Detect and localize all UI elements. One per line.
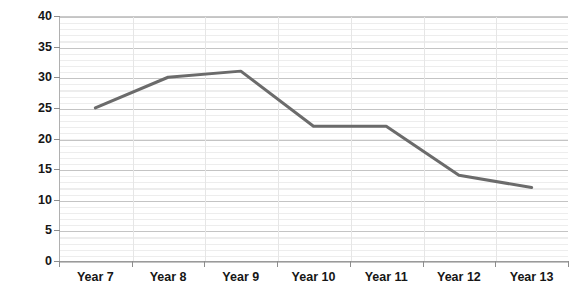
y-tick-mark (54, 47, 60, 48)
y-tick-label: 20 (4, 133, 52, 146)
x-tick-label: Year 12 (423, 271, 496, 284)
x-tick-mark (277, 261, 278, 267)
minor-gridlines (60, 17, 568, 261)
x-tick-label: Year 10 (277, 271, 350, 284)
x-tick-mark (204, 261, 205, 267)
y-tick-label: 15 (4, 163, 52, 176)
major-gridline (60, 48, 568, 49)
y-tick-label: 35 (4, 41, 52, 54)
major-gridline (60, 231, 568, 232)
y-tick-mark (54, 77, 60, 78)
category-separator (205, 17, 206, 261)
y-tick-label: 0 (4, 255, 52, 268)
x-tick-mark (350, 261, 351, 267)
x-tick-label: Year 13 (495, 271, 568, 284)
x-tick-mark (59, 261, 60, 267)
major-gridline (60, 78, 568, 79)
category-separator (278, 17, 279, 261)
y-tick-mark (54, 200, 60, 201)
major-gridline (60, 170, 568, 171)
x-tick-mark (423, 261, 424, 267)
major-gridline (60, 201, 568, 202)
category-separator (351, 17, 352, 261)
x-tick-mark (568, 261, 569, 267)
category-separator (133, 17, 134, 261)
x-tick-label: Year 9 (204, 271, 277, 284)
y-tick-mark (54, 139, 60, 140)
y-tick-mark (54, 230, 60, 231)
category-separator (496, 17, 497, 261)
x-tick-label: Year 7 (59, 271, 132, 284)
y-tick-mark (54, 108, 60, 109)
plot-area (59, 16, 568, 261)
x-tick-label: Year 11 (350, 271, 423, 284)
y-tick-mark (54, 16, 60, 17)
line-chart: 0510152025303540 Year 7Year 8Year 9Year … (0, 0, 580, 297)
x-axis-line (59, 261, 569, 262)
y-tick-mark (54, 169, 60, 170)
major-gridline (60, 262, 568, 263)
major-gridline (60, 140, 568, 141)
y-tick-label: 5 (4, 224, 52, 237)
major-gridline (60, 109, 568, 110)
major-gridlines (60, 17, 568, 261)
y-tick-label: 25 (4, 102, 52, 115)
x-tick-label: Year 8 (132, 271, 205, 284)
category-separator (424, 17, 425, 261)
y-tick-label: 10 (4, 194, 52, 207)
x-tick-mark (495, 261, 496, 267)
y-tick-label: 40 (4, 10, 52, 23)
major-gridline (60, 17, 568, 18)
x-tick-mark (132, 261, 133, 267)
y-tick-label: 30 (4, 71, 52, 84)
